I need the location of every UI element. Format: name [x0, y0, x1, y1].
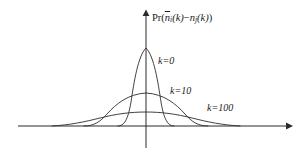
- curve-label-k10: k=10: [170, 86, 191, 96]
- y-axis-label-suffix: ): [209, 12, 213, 23]
- curve-label-k0: k=0: [158, 56, 174, 66]
- y-axis-label-term2-arg: (k): [197, 12, 209, 23]
- y-axis-label: Pr(ni(k)−nj(k)): [152, 13, 212, 24]
- y-axis: [143, 10, 150, 149]
- probability-distribution-figure: Pr(ni(k)−nj(k)) k=0 k=10 k=100: [0, 0, 306, 156]
- x-axis: [18, 122, 293, 129]
- x-axis-arrowhead-icon: [286, 122, 293, 129]
- curve-label-k100: k=100: [207, 103, 233, 113]
- y-axis-arrowhead-icon: [143, 10, 150, 17]
- y-axis-label-prefix: Pr(: [152, 12, 165, 23]
- y-axis-label-term1-arg: (k): [172, 12, 184, 23]
